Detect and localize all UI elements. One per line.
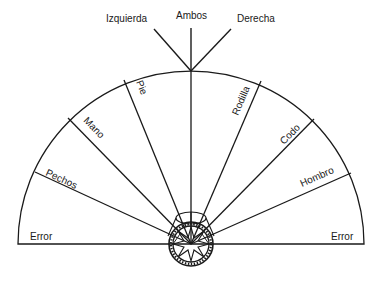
sector-error-left: Error <box>30 231 53 242</box>
sector-error-right: Error <box>331 231 354 242</box>
sector-pechos: Pechos <box>44 167 79 191</box>
sector-pie: Pie <box>134 79 150 97</box>
sector-hombro: Hombro <box>298 164 335 189</box>
label-izquierda: Izquierda <box>106 13 148 24</box>
pointer-lines <box>154 28 231 71</box>
label-derecha: Derecha <box>237 13 275 24</box>
dial-diagram: Izquierda Ambos Derecha Error Pechos Man… <box>0 0 381 288</box>
label-ambos: Ambos <box>176 10 207 21</box>
sector-rodilla: Rodilla <box>230 84 252 117</box>
sector-dividers <box>35 71 351 244</box>
